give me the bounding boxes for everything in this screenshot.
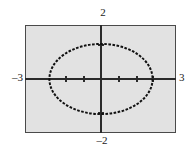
x-min-label: –3 [1,72,23,83]
y-min-label: –2 [92,135,112,146]
x-max-label: 3 [179,72,192,83]
y-max-label: 2 [96,7,110,18]
ellipse-graph-figure: 2 –2 –3 3 [0,0,193,152]
plot-canvas [25,25,176,133]
